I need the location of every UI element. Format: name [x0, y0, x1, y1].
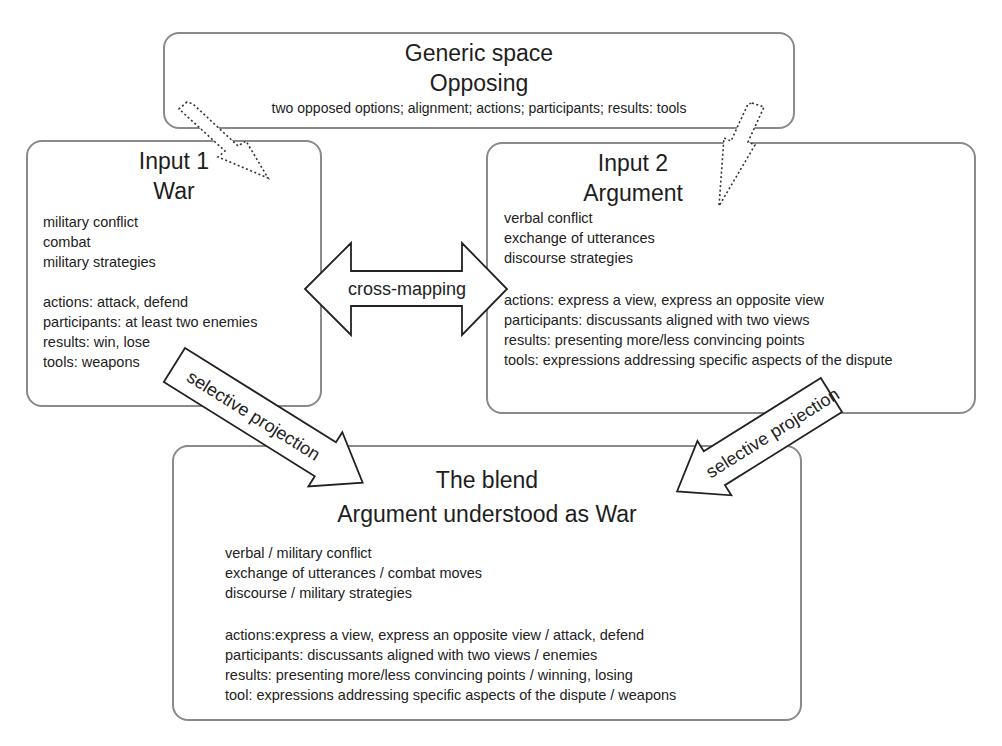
cross-mapping-arrow: cross-mapping: [305, 243, 507, 335]
cross-mapping-label: cross-mapping: [348, 279, 466, 299]
selective-projection-left-label: selective projection: [183, 367, 323, 465]
dotted-arrow-generic-to-input2: [719, 103, 764, 206]
arrows-layer: cross-mapping selective projection selec…: [0, 0, 1002, 746]
selective-projection-right-arrow: selective projection: [660, 364, 854, 518]
selective-projection-left-arrow: selective projection: [157, 338, 379, 510]
dotted-arrow-generic-to-input1: [179, 102, 268, 178]
selective-projection-right-label: selective projection: [702, 384, 842, 482]
